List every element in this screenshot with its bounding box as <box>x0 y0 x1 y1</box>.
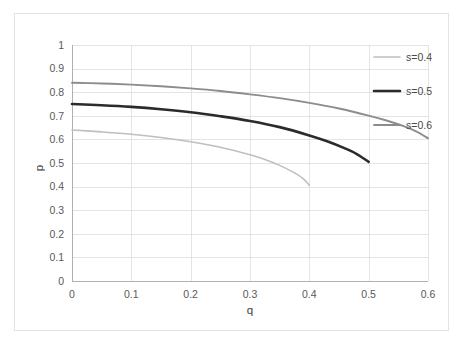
y-tick-label: 0.8 <box>49 86 64 98</box>
y-tick-label: 1 <box>58 39 64 51</box>
x-axis-title: q <box>247 304 253 316</box>
legend-label: s=0.4 <box>406 51 432 63</box>
y-tick-label: 0.1 <box>49 251 64 263</box>
x-tick-label: 0.6 <box>421 288 436 300</box>
y-tick-label: 0.4 <box>49 180 64 192</box>
x-axis-tick-labels: 00.10.20.30.40.50.6 <box>69 288 435 300</box>
y-axis-title: p <box>33 165 45 171</box>
data-series-group <box>72 83 428 186</box>
y-tick-label: 0.7 <box>49 110 64 122</box>
y-tick-label: 0.2 <box>49 228 64 240</box>
y-tick-label: 0.3 <box>49 204 64 216</box>
legend-label: s=0.6 <box>406 119 432 131</box>
x-tick-label: 0.5 <box>361 288 376 300</box>
y-tick-label: 0.9 <box>49 62 64 74</box>
x-tick-label: 0.4 <box>302 288 317 300</box>
x-tick-label: 0 <box>69 288 75 300</box>
series-line-s-0-4 <box>72 130 309 185</box>
y-axis-tick-labels: 00.10.20.30.40.50.60.70.80.91 <box>49 39 64 287</box>
x-tick-label: 0.1 <box>124 288 139 300</box>
gridlines-group <box>72 45 429 282</box>
x-tick-label: 0.2 <box>183 288 198 300</box>
chart-plot: 00.10.20.30.40.50.60.70.80.91 00.10.20.3… <box>0 0 463 348</box>
legend-label: s=0.5 <box>406 85 432 97</box>
y-tick-label: 0.6 <box>49 133 64 145</box>
x-tick-label: 0.3 <box>243 288 258 300</box>
y-tick-label: 0 <box>58 275 64 287</box>
y-tick-label: 0.5 <box>49 157 64 169</box>
chart-container: 00.10.20.30.40.50.60.70.80.91 00.10.20.3… <box>0 0 463 348</box>
